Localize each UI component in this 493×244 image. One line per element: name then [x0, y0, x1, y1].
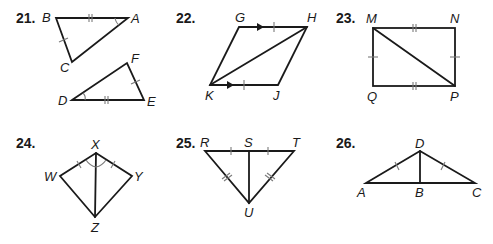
geometry-exercises: 21. B A C F D E 22.	[0, 0, 493, 244]
problem-number: 23.	[336, 10, 355, 26]
vertex-label-x: X	[90, 137, 101, 152]
vertex-label-p: P	[450, 89, 459, 104]
vertex-label-s: S	[244, 135, 253, 150]
vertex-label-a: A	[130, 11, 140, 26]
vertex-label-e: E	[147, 94, 156, 109]
problem-number: 26.	[336, 135, 355, 151]
problem-23: 23. M N Q P	[336, 10, 460, 104]
vertex-label-k: K	[205, 88, 215, 103]
angle-arc	[83, 93, 85, 100]
vertex-label-q: Q	[367, 89, 377, 104]
vertex-label-b: B	[42, 10, 51, 25]
vertex-label-n: N	[450, 11, 460, 26]
angle-arc	[86, 160, 96, 167]
vertex-label-g: G	[235, 10, 245, 25]
vertex-label-d: D	[415, 136, 424, 151]
vertex-label-f: F	[131, 51, 140, 66]
diagonal-mp	[373, 28, 455, 86]
problem-number: 25.	[176, 135, 195, 151]
parallel-arrow-icon	[227, 81, 234, 89]
vertex-label-u: U	[244, 205, 254, 220]
problem-24: 24. X W Y Z	[16, 135, 144, 235]
vertex-label-j: J	[272, 88, 280, 103]
problem-21: 21. B A C F D E	[16, 10, 156, 109]
vertex-label-b: B	[415, 185, 424, 200]
vertex-label-y: Y	[134, 169, 144, 184]
problem-22: 22. G H K J	[176, 10, 317, 103]
vertex-label-c: C	[60, 60, 70, 75]
problem-26: 26. D A B C	[336, 135, 482, 200]
triangle-bac	[56, 18, 128, 62]
diagonal-xz	[95, 153, 96, 217]
angle-arc	[96, 160, 106, 167]
vertex-label-z: Z	[90, 220, 100, 235]
problem-number: 24.	[16, 135, 35, 151]
vertex-label-a: A	[356, 185, 366, 200]
angle-arc	[115, 18, 119, 25]
problem-25: 25. R S T U	[176, 135, 301, 220]
vertex-label-t: T	[292, 135, 301, 150]
vertex-label-c: C	[472, 185, 482, 200]
parallel-arrow-icon	[257, 23, 264, 31]
vertex-label-d: D	[58, 93, 67, 108]
vertex-label-w: W	[44, 169, 58, 184]
triangle-dfe	[72, 63, 144, 100]
vertex-label-h: H	[307, 10, 317, 25]
problem-number: 22.	[176, 10, 195, 26]
problem-number: 21.	[16, 10, 35, 26]
vertex-label-r: R	[200, 135, 209, 150]
vertex-label-m: M	[366, 11, 377, 26]
